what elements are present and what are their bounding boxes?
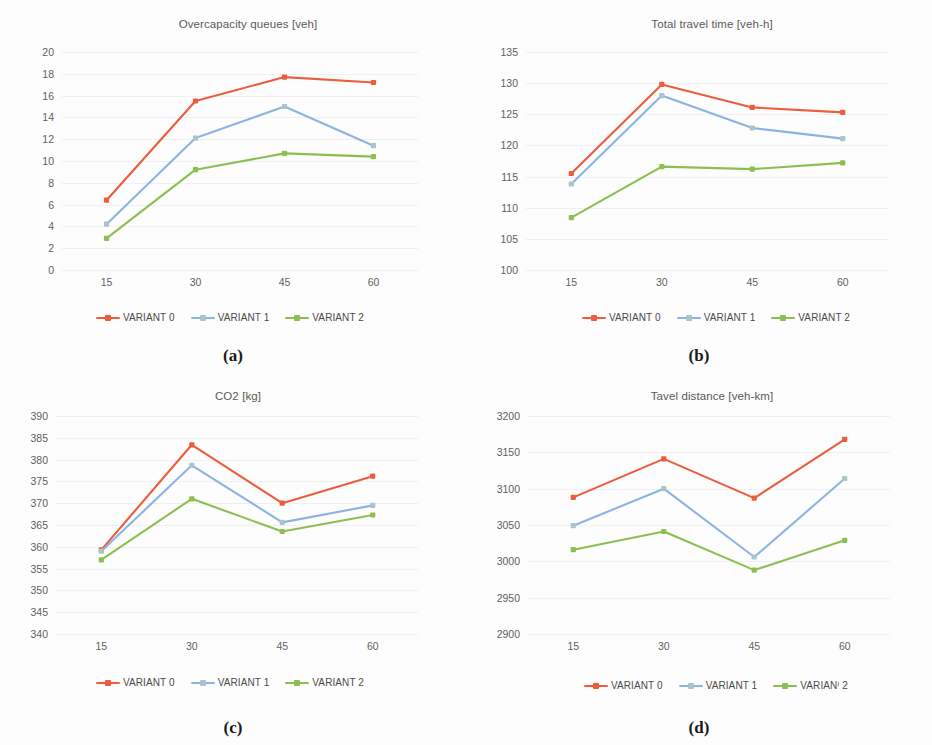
legend-label: VARIANT 1	[218, 677, 270, 688]
legend-label: VARIANT 2	[798, 312, 850, 323]
series-marker	[842, 476, 847, 481]
panel-caption-b: (b)	[466, 346, 932, 366]
legend-swatch-icon	[96, 313, 120, 323]
plot-area-a: 0246810121416182015304560	[18, 44, 436, 296]
chart-legend-a: VARIANT 0VARIANT 1VARIANT 2	[60, 312, 400, 323]
chart-title-d: Tavel distance [veh-km]	[466, 390, 932, 402]
chart-title-a: Overcapacity queues [veh]	[0, 18, 466, 30]
series-line	[571, 96, 843, 184]
series-marker	[569, 215, 574, 220]
legend-item[interactable]: VARIANT 1	[679, 680, 758, 691]
chart-legend-b: VARIANT 0VARIANT 1VARIANT 2	[556, 312, 876, 323]
series-marker	[750, 167, 755, 172]
series-marker	[661, 486, 666, 491]
legend-label: VARIANT 1	[704, 312, 756, 323]
legend-item[interactable]: VARIANT 1	[191, 677, 270, 688]
series-marker	[569, 181, 574, 186]
legend-item[interactable]: VARIANT 1	[677, 312, 756, 323]
series-marker	[104, 236, 109, 241]
legend-swatch-icon	[96, 678, 120, 688]
legend-label: VARIAN⁾ 2	[800, 680, 848, 691]
series-line	[571, 163, 843, 218]
series-marker	[371, 143, 376, 148]
legend-item[interactable]: VARIANT 0	[96, 677, 175, 688]
series-marker	[370, 474, 375, 479]
legend-swatch-icon	[191, 678, 215, 688]
legend-label: VARIANT 0	[123, 677, 175, 688]
series-marker	[840, 136, 845, 141]
legend-item[interactable]: VARIANT 0	[582, 312, 661, 323]
plot-area-c: 3403453503553603653703753803853901530456…	[8, 408, 436, 660]
series-layer	[478, 44, 906, 296]
chart-title-b: Total travel time [veh-h]	[466, 18, 932, 30]
series-marker	[193, 98, 198, 103]
series-line	[571, 84, 843, 173]
series-line	[573, 439, 845, 498]
legend-label: VARIANT 1	[706, 680, 758, 691]
legend-label: VARIANT 1	[218, 312, 270, 323]
series-marker	[280, 520, 285, 525]
series-marker	[750, 125, 755, 130]
legend-label: VARIANT 0	[609, 312, 661, 323]
series-marker	[104, 198, 109, 203]
series-marker	[282, 151, 287, 156]
legend-swatch-icon	[285, 313, 309, 323]
series-layer	[18, 44, 436, 296]
series-marker	[99, 549, 104, 554]
legend-swatch-icon	[677, 313, 701, 323]
series-marker	[193, 136, 198, 141]
legend-swatch-icon	[584, 681, 608, 691]
series-marker	[282, 75, 287, 80]
plot-area-d: 290029503000305031003150320015304560	[472, 408, 908, 660]
legend-item[interactable]: VARIANT 2	[285, 677, 364, 688]
legend-swatch-icon	[582, 313, 606, 323]
chart-panel-b: Total travel time [veh-h] 10010511011512…	[466, 0, 932, 372]
chart-title-c: CO2 [kg]	[0, 390, 466, 402]
legend-item[interactable]: VARIANT 2	[771, 312, 850, 323]
panel-caption-c: (c)	[0, 718, 466, 738]
series-marker	[571, 523, 576, 528]
series-marker	[571, 495, 576, 500]
series-marker	[842, 538, 847, 543]
series-marker	[282, 104, 287, 109]
chart-legend-d: VARIANT 0VARIANT 1VARIAN⁾ 2	[556, 680, 876, 691]
series-marker	[750, 105, 755, 110]
series-marker	[370, 512, 375, 517]
legend-swatch-icon	[773, 681, 797, 691]
legend-item[interactable]: VARIANT 2	[285, 312, 364, 323]
plot-area-b: 10010511011512012513013515304560	[478, 44, 906, 296]
series-layer	[8, 408, 436, 660]
series-marker	[189, 496, 194, 501]
series-line	[573, 479, 845, 558]
series-marker	[99, 557, 104, 562]
panel-caption-d: (d)	[466, 718, 932, 738]
legend-item[interactable]: VARIANT 1	[191, 312, 270, 323]
series-line	[101, 499, 373, 560]
series-marker	[842, 437, 847, 442]
series-marker	[569, 171, 574, 176]
legend-label: VARIANT 0	[123, 312, 175, 323]
chart-legend-c: VARIANT 0VARIANT 1VARIANT 2	[60, 677, 400, 688]
series-marker	[104, 222, 109, 227]
series-marker	[280, 501, 285, 506]
series-layer	[472, 408, 908, 660]
legend-item[interactable]: VARIAN⁾ 2	[773, 680, 848, 691]
series-line	[573, 532, 845, 571]
legend-label: VARIANT 0	[611, 680, 663, 691]
legend-swatch-icon	[285, 678, 309, 688]
legend-item[interactable]: VARIANT 0	[584, 680, 663, 691]
legend-item[interactable]: VARIANT 0	[96, 312, 175, 323]
series-marker	[370, 503, 375, 508]
series-line	[101, 465, 373, 551]
series-line	[107, 153, 374, 238]
series-marker	[571, 547, 576, 552]
series-marker	[659, 164, 664, 169]
chart-panel-c: CO2 [kg] 3403453503553603653703753803853…	[0, 372, 466, 744]
series-marker	[752, 496, 757, 501]
chart-panel-a: Overcapacity queues [veh] 02468101214161…	[0, 0, 466, 372]
series-marker	[840, 110, 845, 115]
series-marker	[371, 80, 376, 85]
series-marker	[752, 554, 757, 559]
legend-label: VARIANT 2	[312, 677, 364, 688]
legend-swatch-icon	[191, 313, 215, 323]
